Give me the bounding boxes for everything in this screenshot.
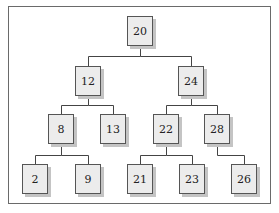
tree-node-24: 24 [178, 66, 204, 96]
edge-24-28 [192, 106, 218, 115]
tree-node-13: 13 [100, 114, 126, 144]
edge-28-26 [218, 144, 245, 164]
tree-node-8: 8 [48, 114, 74, 144]
edge-12-8 [62, 96, 89, 114]
edge-22-21 [141, 144, 167, 164]
tree-node-20: 20 [127, 16, 153, 46]
edge-22-23 [167, 156, 193, 165]
tree-node-2: 2 [22, 164, 48, 194]
edge-20-12 [89, 46, 141, 66]
tree-node-23: 23 [179, 164, 205, 194]
edge-20-24 [141, 57, 192, 67]
tree-node-22: 22 [153, 114, 179, 144]
tree-node-9: 9 [75, 164, 101, 194]
edge-24-22 [167, 96, 192, 114]
tree-node-26: 26 [231, 164, 257, 194]
tree-node-21: 21 [127, 164, 153, 194]
edge-12-13 [89, 106, 114, 115]
edge-8-2 [36, 144, 62, 164]
edge-8-9 [62, 156, 89, 165]
tree-node-28: 28 [204, 114, 230, 144]
tree-node-12: 12 [75, 66, 101, 96]
